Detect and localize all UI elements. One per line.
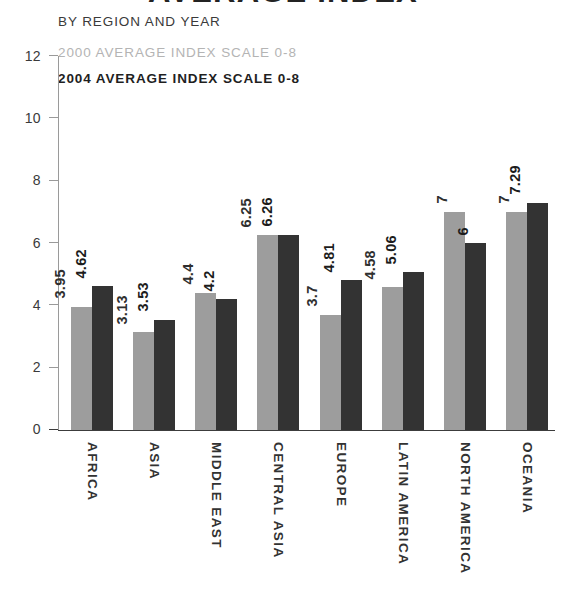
y-tick-label: 10 — [25, 110, 41, 126]
bar[interactable]: 4.81 — [341, 280, 362, 430]
y-tick-8: 8 — [49, 180, 58, 181]
bar[interactable]: 3.7 — [320, 315, 341, 430]
bars-layer: 3.954.623.133.534.44.26.256.263.74.814.5… — [58, 56, 555, 430]
x-category: NORTH AMERICA — [444, 438, 486, 598]
bar[interactable]: 7 — [506, 212, 527, 430]
plot-area: 024681012 3.954.623.133.534.44.26.256.26… — [58, 56, 555, 430]
y-tick-12: 12 — [49, 55, 58, 56]
bar-group: 4.44.2 — [195, 56, 237, 430]
bar[interactable]: 4.58 — [382, 287, 403, 430]
bar[interactable]: 3.95 — [71, 307, 92, 430]
x-category-label: EUROPE — [334, 442, 348, 507]
y-tick-4: 4 — [49, 304, 58, 305]
x-category-label: AFRICA — [85, 442, 99, 501]
bar-value-label: 7 — [436, 195, 451, 203]
x-axis-category-labels: AFRICAASIAMIDDLE EASTCENTRAL ASIAEUROPEL… — [58, 438, 555, 598]
bar-value-label: 5.06 — [384, 235, 399, 264]
bar[interactable]: 6 — [465, 243, 486, 430]
x-category: ASIA — [133, 438, 175, 598]
x-category: MIDDLE EAST — [195, 438, 237, 598]
bar-value-label: 6.25 — [239, 198, 254, 227]
bar-value-label: 7 — [498, 195, 513, 203]
y-tick-6: 6 — [49, 242, 58, 243]
y-tick-label: 6 — [33, 235, 41, 251]
bar[interactable]: 6.25 — [257, 235, 278, 430]
bar-group: 3.954.62 — [71, 56, 113, 430]
bar[interactable]: 6.26 — [278, 235, 299, 430]
y-tick-label: 2 — [33, 359, 41, 375]
bar-group: 6.256.26 — [257, 56, 299, 430]
bar-value-label: 6 — [457, 227, 472, 235]
x-category: AFRICA — [71, 438, 113, 598]
x-category-label: LATIN AMERICA — [396, 442, 410, 565]
bar-value-label: 3.53 — [135, 283, 150, 312]
bar-value-label: 3.13 — [114, 295, 129, 324]
bar-group: 4.585.06 — [382, 56, 424, 430]
chart-subtitle: BY REGION AND YEAR — [58, 14, 221, 29]
chart-container: AVERAGE INDEX BY REGION AND YEAR 2000 AV… — [0, 0, 572, 606]
bar-value-label: 3.95 — [52, 269, 67, 298]
y-tick-0: 0 — [49, 429, 58, 431]
bar[interactable]: 7.29 — [527, 203, 548, 430]
bar[interactable]: 5.06 — [403, 272, 424, 430]
y-tick-10: 10 — [49, 117, 58, 118]
x-category-label: NORTH AMERICA — [458, 442, 472, 574]
x-category-label: CENTRAL ASIA — [272, 442, 286, 559]
bar-group: 76 — [444, 56, 486, 430]
y-tick-2: 2 — [49, 367, 58, 368]
x-category-label: MIDDLE EAST — [210, 442, 224, 549]
bar[interactable]: 4.62 — [92, 286, 113, 430]
bar-group: 77.29 — [506, 56, 548, 430]
bar[interactable]: 4.4 — [195, 293, 216, 430]
bar-group: 3.133.53 — [133, 56, 175, 430]
chart-title: AVERAGE INDEX — [148, 0, 418, 10]
x-category: CENTRAL ASIA — [257, 438, 299, 598]
y-tick-label: 12 — [25, 48, 41, 64]
x-category: EUROPE — [320, 438, 362, 598]
bar-value-label: 4.58 — [363, 250, 378, 279]
bar-group: 3.74.81 — [320, 56, 362, 430]
bar-value-label: 4.62 — [73, 249, 88, 278]
bar[interactable]: 3.13 — [133, 332, 154, 430]
y-tick-label: 4 — [33, 297, 41, 313]
bar-value-label: 4.81 — [322, 243, 337, 272]
bar[interactable]: 7 — [444, 212, 465, 430]
x-category: LATIN AMERICA — [382, 438, 424, 598]
bar-value-label: 7.29 — [508, 165, 523, 194]
x-category-label: ASIA — [147, 442, 161, 480]
bar-value-label: 6.26 — [260, 197, 275, 226]
bar-value-label: 4.2 — [202, 270, 217, 291]
x-category: OCEANIA — [506, 438, 548, 598]
bar-value-label: 4.4 — [181, 264, 196, 285]
bar[interactable]: 4.2 — [216, 299, 237, 430]
bar[interactable]: 3.53 — [154, 320, 175, 430]
y-tick-label: 0 — [33, 421, 41, 437]
bar-value-label: 3.7 — [305, 286, 320, 307]
y-tick-label: 8 — [33, 172, 41, 188]
x-category-label: OCEANIA — [520, 442, 534, 514]
